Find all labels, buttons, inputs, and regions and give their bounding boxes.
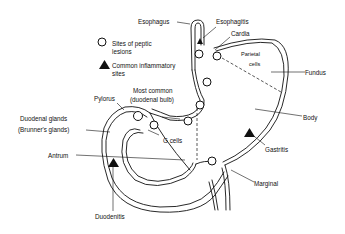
label-pylorus: Pylorus — [94, 95, 115, 103]
label-brunners-glands: (Brunner's glands) — [18, 126, 69, 134]
label-antrum: Antrum — [48, 152, 68, 159]
site-circle-g-cells — [150, 121, 158, 129]
label-marginal: Marginal — [254, 180, 278, 188]
label-fundus: Fundus — [305, 69, 326, 76]
label-duodenal-glands: Duodenal glands — [20, 115, 67, 123]
label-most-common: Most common — [133, 87, 173, 94]
label-parietal-cells: cells — [249, 61, 260, 67]
site-circle-esophagus — [195, 50, 203, 58]
stomach-diagram: Sites of peptic lesions Common inflammat… — [0, 0, 345, 234]
label-g-cells: G cells — [163, 137, 182, 144]
legend: Sites of peptic lesions Common inflammat… — [98, 38, 176, 77]
site-circle-lesser-mid — [196, 101, 204, 109]
label-cardia: Cardia — [231, 30, 250, 37]
triangle-esophagitis — [197, 38, 203, 44]
site-circle-lesser-upper — [203, 78, 211, 86]
label-esophagus: Esophagus — [138, 18, 170, 26]
site-circle-cardia — [213, 52, 221, 60]
label-duodenitis: Duodenitis — [95, 213, 125, 220]
legend-circle-icon — [98, 38, 106, 46]
triangle-duodenitis — [108, 158, 119, 167]
site-circle-marginal — [208, 157, 216, 165]
legend-triangle-icon — [99, 60, 110, 69]
esophagus-structure — [191, 20, 204, 70]
site-circle-lesser-low — [184, 117, 192, 125]
site-circle-duodenal-bulb — [134, 112, 143, 121]
label-parietal: Parietal — [241, 51, 260, 57]
legend-triangle-label-1: Common inflammatory — [112, 62, 176, 70]
label-duodenal-bulb: (duodenal bulb) — [130, 96, 174, 104]
label-esophagitis: Esophagitis — [216, 18, 249, 26]
legend-triangle-label-2: sites — [112, 70, 125, 77]
label-gastritis: Gastritis — [265, 146, 288, 153]
legend-circle-label-2: lesions — [112, 48, 132, 55]
legend-circle-label-1: Sites of peptic — [112, 40, 152, 48]
label-body: Body — [303, 114, 318, 122]
